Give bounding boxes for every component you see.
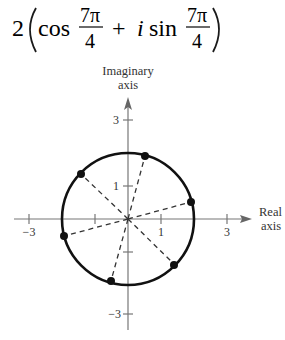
root-point-15deg: [187, 198, 195, 206]
real-axis-label-line1: Real: [259, 205, 282, 219]
root-point-75deg: [141, 152, 149, 160]
y-tick-label-3: 3: [113, 113, 119, 127]
x-tick-label-1: 1: [158, 225, 164, 239]
root-point-255deg: [107, 277, 115, 285]
imaginary-axis-label-line2: axis: [118, 78, 138, 92]
x-tick-label-3: 3: [224, 225, 230, 239]
root-point-195deg: [60, 232, 68, 240]
y-tick-label-neg3: −3: [108, 307, 121, 321]
root-point-135deg: [77, 170, 85, 178]
y-tick-label-1: 1: [113, 179, 119, 193]
imaginary-axis-label-line1: Imaginary: [102, 64, 154, 78]
real-axis-label-line2: axis: [261, 219, 281, 233]
root-point-315deg: [170, 261, 178, 269]
x-tick-label-neg3: −3: [23, 225, 36, 239]
complex-plane-plot: Imaginary axis Real axis −3 1 3 3 1 −3: [0, 0, 285, 340]
